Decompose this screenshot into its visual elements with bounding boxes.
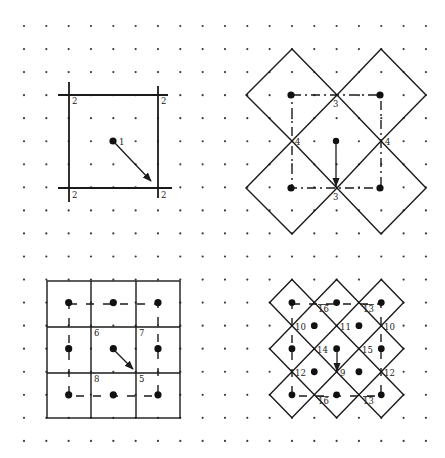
lattice-dot bbox=[135, 117, 137, 119]
lattice-dot bbox=[246, 117, 248, 119]
cell-center-point bbox=[154, 299, 161, 306]
lattice-dot bbox=[425, 417, 427, 419]
lattice-dot bbox=[425, 71, 427, 73]
point-br bbox=[376, 184, 383, 191]
lattice-dot bbox=[425, 278, 427, 280]
lattice-dot bbox=[269, 94, 271, 96]
lattice-dot bbox=[358, 255, 360, 257]
lattice-dot bbox=[135, 71, 137, 73]
lattice-dot bbox=[425, 302, 427, 304]
lattice-dot bbox=[179, 209, 181, 211]
lattice-dot bbox=[291, 440, 293, 442]
lattice-dot bbox=[202, 117, 204, 119]
lattice-dot bbox=[246, 71, 248, 73]
lattice-dot bbox=[224, 371, 226, 373]
label-10-right: 10 bbox=[384, 322, 395, 332]
lattice-dot bbox=[224, 394, 226, 396]
label-point-1: 1 bbox=[119, 137, 124, 147]
point-tl bbox=[287, 91, 294, 98]
lattice-dot bbox=[112, 209, 114, 211]
lattice-dot bbox=[358, 140, 360, 142]
lattice-dot bbox=[224, 140, 226, 142]
lattice-dot bbox=[112, 255, 114, 257]
lattice-dot bbox=[202, 440, 204, 442]
lattice-dot bbox=[336, 71, 338, 73]
lattice-dot bbox=[23, 163, 25, 165]
lattice-dot bbox=[358, 232, 360, 234]
lattice-dot bbox=[224, 348, 226, 350]
label-9: 9 bbox=[340, 368, 345, 378]
lattice-dots bbox=[23, 25, 427, 442]
lattice-dot bbox=[246, 25, 248, 27]
lattice-dot bbox=[358, 417, 360, 419]
lattice-dot bbox=[112, 117, 114, 119]
lattice-dot bbox=[179, 186, 181, 188]
diamond-center-point bbox=[333, 299, 340, 306]
diamond-center-point bbox=[289, 299, 296, 306]
lattice-dot bbox=[179, 94, 181, 96]
lattice-dot bbox=[425, 440, 427, 442]
diamond-center-point bbox=[289, 345, 296, 352]
lattice-dot bbox=[291, 71, 293, 73]
label-7: 7 bbox=[139, 328, 144, 338]
lattice-dot bbox=[425, 117, 427, 119]
lattice-dot bbox=[23, 302, 25, 304]
lattice-dot bbox=[358, 48, 360, 50]
lattice-dot bbox=[403, 440, 405, 442]
lattice-dot bbox=[336, 48, 338, 50]
label-12-right: 12 bbox=[384, 368, 395, 378]
lattice-dot bbox=[202, 232, 204, 234]
lattice-dot bbox=[269, 232, 271, 234]
lattice-dot bbox=[291, 117, 293, 119]
lattice-dot bbox=[202, 163, 204, 165]
lattice-dot bbox=[179, 440, 181, 442]
lattice-dot bbox=[403, 325, 405, 327]
lattice-dot bbox=[202, 71, 204, 73]
lattice-dot bbox=[45, 440, 47, 442]
label-corner-br: 2 bbox=[161, 190, 166, 200]
lattice-dot bbox=[269, 371, 271, 373]
lattice-dot bbox=[45, 140, 47, 142]
diamond-center-point bbox=[378, 391, 385, 398]
point-bl bbox=[287, 184, 294, 191]
lattice-dot bbox=[313, 278, 315, 280]
lattice-dot bbox=[246, 348, 248, 350]
lattice-dot bbox=[425, 25, 427, 27]
lattice-dot bbox=[90, 255, 92, 257]
lattice-dot bbox=[380, 71, 382, 73]
lattice-dot bbox=[224, 25, 226, 27]
lattice-dot bbox=[425, 48, 427, 50]
lattice-dot bbox=[403, 48, 405, 50]
lattice-dot bbox=[403, 417, 405, 419]
lattice-dot bbox=[23, 325, 25, 327]
lattice-dot bbox=[224, 186, 226, 188]
lattice-dot bbox=[224, 48, 226, 50]
lattice-dot bbox=[224, 71, 226, 73]
lattice-dot bbox=[336, 232, 338, 234]
lattice-dot bbox=[202, 94, 204, 96]
lattice-dot bbox=[179, 163, 181, 165]
lattice-dot bbox=[246, 278, 248, 280]
lattice-dot bbox=[224, 232, 226, 234]
lattice-dot bbox=[246, 394, 248, 396]
label-13-bottom: 13 bbox=[363, 396, 374, 406]
lattice-dot bbox=[269, 325, 271, 327]
label-10-left: 10 bbox=[295, 322, 306, 332]
lattice-dot bbox=[336, 25, 338, 27]
lattice-dot bbox=[336, 440, 338, 442]
point-tr bbox=[376, 91, 383, 98]
lattice-dot bbox=[380, 255, 382, 257]
lattice-dot bbox=[202, 417, 204, 419]
lattice-dot bbox=[179, 25, 181, 27]
lattice-dot bbox=[403, 25, 405, 27]
label-13-top: 13 bbox=[363, 304, 374, 314]
label-16-top: 16 bbox=[318, 304, 329, 314]
lattice-dot bbox=[179, 232, 181, 234]
lattice-dot bbox=[90, 209, 92, 211]
cell-center-point bbox=[65, 345, 72, 352]
lattice-dot bbox=[202, 348, 204, 350]
lattice-dot bbox=[425, 209, 427, 211]
lattice-dot bbox=[269, 140, 271, 142]
lattice-dot bbox=[135, 255, 137, 257]
lattice-dot bbox=[135, 209, 137, 211]
